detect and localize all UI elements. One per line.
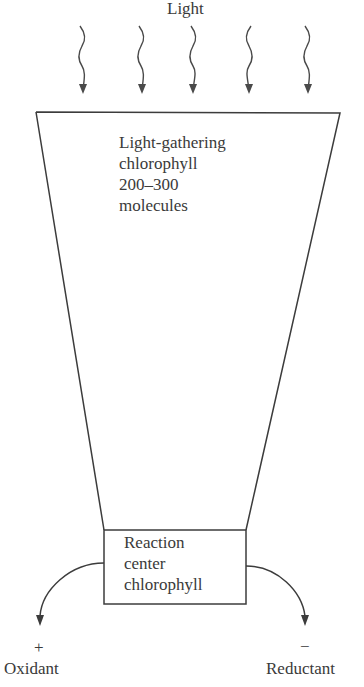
reductant-arrow-icon: [246, 566, 305, 616]
oxidant-label: Oxidant: [4, 658, 59, 679]
reaction-center-label-line: chlorophyll: [124, 574, 202, 595]
reductant-sign: −: [300, 638, 310, 656]
reaction-center-label-line: center: [124, 553, 202, 574]
wavy-arrow-icon: [190, 26, 196, 90]
reductant-label: Reductant: [266, 658, 335, 679]
antenna-label: Light-gathering chlorophyll 200–300 mole…: [119, 132, 226, 216]
reaction-center-label-line: Reaction: [124, 532, 202, 553]
oxidant-sign: +: [34, 639, 44, 657]
wavy-arrow-icon: [304, 26, 310, 90]
antenna-label-line: chlorophyll: [119, 153, 226, 174]
wavy-arrow-icon: [79, 26, 85, 90]
wavy-arrow-icon: [138, 26, 144, 90]
wavy-arrow-icon: [246, 26, 252, 90]
antenna-label-line: Light-gathering: [119, 132, 226, 153]
oxidant-arrow-icon: [40, 563, 104, 616]
light-label: Light: [167, 0, 204, 19]
reaction-center-label: Reaction center chlorophyll: [124, 532, 202, 595]
light-arrows: [79, 26, 312, 94]
antenna-label-line: molecules: [119, 195, 226, 216]
antenna-label-line: 200–300: [119, 174, 226, 195]
